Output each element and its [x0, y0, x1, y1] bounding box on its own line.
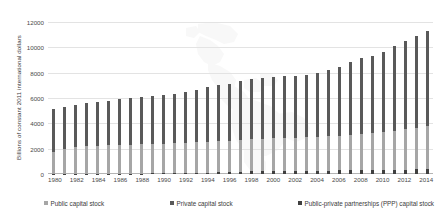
- legend-item[interactable]: Public-private partnerships (PPP) capita…: [298, 200, 434, 207]
- bar-segment: [272, 77, 275, 138]
- bar-segment: [239, 172, 242, 174]
- bar-segment: [426, 126, 429, 169]
- bar-segment: [371, 56, 374, 133]
- bar-segment: [85, 103, 88, 146]
- bar-segment: [195, 142, 198, 172]
- bar-segment: [327, 70, 330, 136]
- bar-segment: [327, 136, 330, 170]
- legend-item[interactable]: Public capital stock: [44, 200, 170, 207]
- bar-segment: [217, 85, 220, 141]
- bar-segment: [206, 142, 209, 173]
- bar-segment: [283, 138, 286, 171]
- bar-segment: [129, 145, 132, 174]
- x-tick-label: 1986: [114, 176, 128, 190]
- bar-segment: [272, 171, 275, 174]
- bar-segment: [415, 36, 418, 128]
- bar-segment: [228, 172, 231, 174]
- bar-segment: [184, 143, 187, 173]
- x-axis-tick-labels: 1980198219841986198819901992199419961998…: [48, 176, 433, 190]
- bar-segment: [393, 170, 396, 174]
- bar-segment: [162, 95, 165, 144]
- bar-group: [411, 22, 422, 174]
- x-tick-label: 2004: [310, 176, 324, 190]
- legend-item[interactable]: Private capital stock: [170, 200, 298, 207]
- bar-group: [202, 22, 213, 174]
- bar-group: [378, 22, 389, 174]
- bar-segment: [195, 173, 198, 174]
- y-tick-label: 10000: [27, 44, 44, 51]
- bar-group: [224, 22, 235, 174]
- bar-segment: [250, 139, 253, 171]
- x-tick-label: 2010: [376, 176, 390, 190]
- legend-swatch-icon: [298, 201, 302, 205]
- bar-segment: [382, 52, 385, 132]
- chart-legend: Public capital stockPrivate capital stoc…: [44, 197, 434, 209]
- bar-segment: [360, 170, 363, 174]
- bar-segment: [184, 92, 187, 143]
- bar-group: [92, 22, 103, 174]
- bar-segment: [371, 133, 374, 170]
- bar-group: [114, 22, 125, 174]
- bar-segment: [74, 105, 77, 147]
- bar-segment: [151, 96, 154, 144]
- bar-segment: [96, 146, 99, 174]
- bar-group: [147, 22, 158, 174]
- bar-segment: [349, 62, 352, 135]
- x-tick-label: 1980: [48, 176, 62, 190]
- legend-swatch-icon: [44, 201, 48, 205]
- bar-segment: [283, 76, 286, 138]
- bar-segment: [85, 146, 88, 174]
- x-tick-label: 2002: [288, 176, 302, 190]
- bar-segment: [272, 138, 275, 171]
- bar-segment: [107, 101, 110, 146]
- bar-segment: [426, 169, 429, 174]
- x-tick-label: 2000: [266, 176, 280, 190]
- bar-segment: [393, 131, 396, 170]
- bar-segment: [327, 171, 330, 174]
- bar-segment: [393, 46, 396, 130]
- bar-segment: [63, 107, 66, 149]
- bar-segment: [371, 170, 374, 174]
- bar-segment: [349, 135, 352, 170]
- bar-segment: [338, 170, 341, 174]
- bar-segment: [195, 90, 198, 143]
- bar-segment: [305, 75, 308, 137]
- bar-segment: [261, 78, 264, 139]
- bar-group: [257, 22, 268, 174]
- bar-segment: [360, 58, 363, 134]
- y-axis-title: Billions of constant 2011 international …: [15, 18, 22, 178]
- bar-segment: [415, 169, 418, 174]
- bar-segment: [294, 171, 297, 174]
- bar-group: [356, 22, 367, 174]
- bar-segment: [52, 152, 55, 174]
- plot-area: 12000 10000 8000 6000 4000 2000 0: [48, 22, 433, 174]
- x-tick-label: 1992: [179, 176, 193, 190]
- bar-segment: [228, 141, 231, 172]
- bar-segment: [239, 81, 242, 140]
- bar-group: [312, 22, 323, 174]
- bar-segment: [404, 170, 407, 174]
- bar-group: [169, 22, 180, 174]
- bar-segment: [206, 87, 209, 142]
- x-tick-label: 1990: [157, 176, 171, 190]
- y-tick-label: 4000: [30, 120, 44, 127]
- bar-group: [246, 22, 257, 174]
- y-tick-label: 0: [41, 171, 44, 178]
- bar-group: [103, 22, 114, 174]
- bar-segment: [283, 171, 286, 174]
- bar-segment: [52, 109, 55, 152]
- bar-group: [290, 22, 301, 174]
- x-tick-label: 1984: [92, 176, 106, 190]
- chart-container: Billions of constant 2011 international …: [0, 0, 439, 212]
- bar-segment: [382, 170, 385, 174]
- bar-segment: [305, 171, 308, 174]
- bar-segment: [63, 149, 66, 174]
- bar-segment: [217, 172, 220, 174]
- bar-segment: [140, 144, 143, 173]
- bar-group: [345, 22, 356, 174]
- x-tick-label: 1988: [135, 176, 149, 190]
- x-tick-label: 1998: [245, 176, 259, 190]
- bar-group: [81, 22, 92, 174]
- y-tick-label: 6000: [30, 95, 44, 102]
- bar-group: [301, 22, 312, 174]
